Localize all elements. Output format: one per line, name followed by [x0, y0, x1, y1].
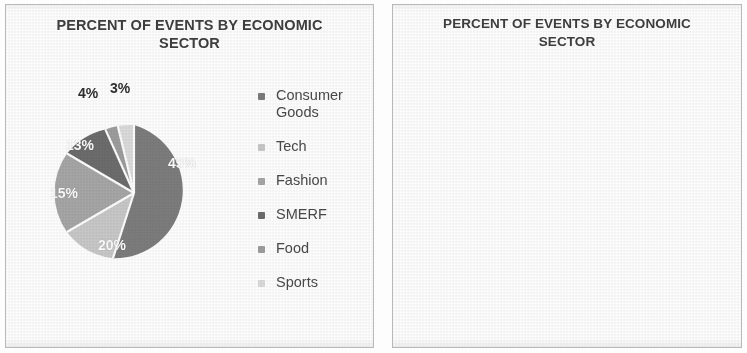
pie-chart-panel: PERCENT OF EVENTS BY ECONOMIC SECTOR — [5, 4, 374, 348]
legend-item-food[interactable]: Food — [258, 240, 370, 257]
legend-label-consumer-goods: Consumer Goods — [276, 87, 370, 121]
donut-chart-title: PERCENT OF EVENTS BY ECONOMIC SECTOR — [393, 15, 741, 51]
legend-item-tech[interactable]: Tech — [258, 138, 370, 155]
donut-chart-panel: PERCENT OF EVENTS BY ECONOMIC SECTOR — [392, 4, 742, 348]
legend-label-tech: Tech — [276, 138, 307, 155]
legend-label-sports: Sports — [276, 274, 318, 291]
pie-svg — [22, 75, 250, 315]
legend-swatch-icon-tech — [258, 144, 265, 151]
legend-swatch-icon-food — [258, 246, 265, 253]
legend-swatch-icon-sports — [258, 280, 265, 287]
scan-noise-overlay — [393, 5, 741, 347]
legend-item-consumer-goods[interactable]: Consumer Goods — [258, 87, 370, 121]
legend-swatch-icon-smerf — [258, 212, 265, 219]
legend-label-food: Food — [276, 240, 309, 257]
legend-item-fashion[interactable]: Fashion — [258, 172, 370, 189]
panel-edge-shading — [393, 5, 741, 347]
pie-chart-legend: Consumer Goods Tech Fashion SMERF Food S… — [258, 87, 370, 308]
pie-chart-title: PERCENT OF EVENTS BY ECONOMIC SECTOR — [6, 16, 373, 52]
legend-swatch-icon-fashion — [258, 178, 265, 185]
two-chart-figure: PERCENT OF EVENTS BY ECONOMIC SECTOR — [0, 0, 747, 353]
legend-item-smerf[interactable]: SMERF — [258, 206, 370, 223]
legend-swatch-icon-consumer-goods — [258, 93, 265, 100]
pie-chart-plot-area: 45% 20% 15% 13% 4% 3% — [22, 75, 250, 315]
legend-label-fashion: Fashion — [276, 172, 328, 189]
legend-item-sports[interactable]: Sports — [258, 274, 370, 291]
legend-label-smerf: SMERF — [276, 206, 327, 223]
